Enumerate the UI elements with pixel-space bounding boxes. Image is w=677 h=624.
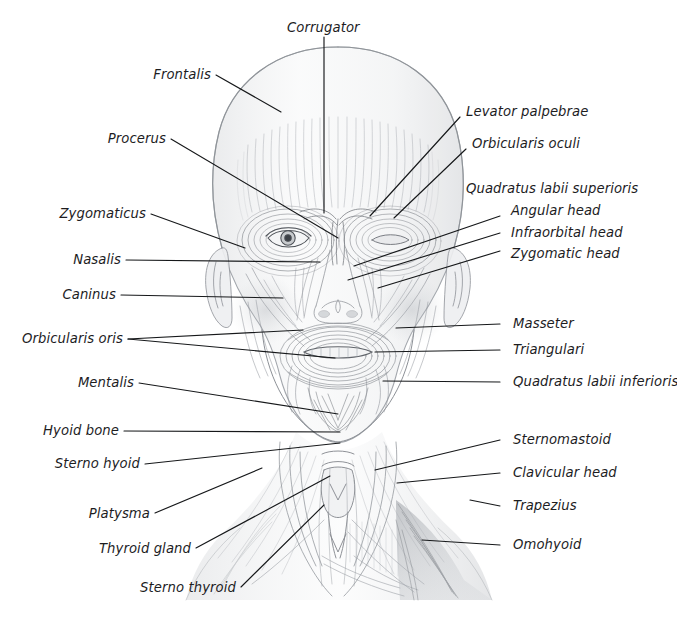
leader-triangulari bbox=[375, 350, 500, 352]
leader-nasalis bbox=[126, 260, 320, 262]
label-sterno-hyoid[interactable]: Sterno hyoid bbox=[55, 456, 140, 471]
anatomy-diagram-canvas: Corrugator Frontalis Procerus Zygomaticu… bbox=[0, 0, 677, 624]
leader-zygomaticus bbox=[151, 214, 245, 248]
label-sterno-thyroid[interactable]: Sterno thyroid bbox=[140, 580, 236, 595]
leader-orbicularis-oculi bbox=[394, 149, 466, 218]
leader-masseter bbox=[396, 324, 500, 328]
label-mentalis[interactable]: Mentalis bbox=[78, 375, 134, 390]
label-zygomaticus[interactable]: Zygomaticus bbox=[59, 206, 146, 221]
leader-hyoid-bone bbox=[124, 431, 340, 432]
label-quadratus-labii-inferioris[interactable]: Quadratus labii inferioris bbox=[513, 374, 677, 389]
leader-quadratus-labii-inferioris bbox=[383, 381, 500, 382]
label-zygomatic-head[interactable]: Zygomatic head bbox=[511, 246, 620, 261]
leader-clavicular-head bbox=[397, 473, 500, 483]
leader-trapezius bbox=[470, 500, 500, 506]
leader-sternomastoid bbox=[375, 440, 500, 470]
label-quadratus-labii-superioris[interactable]: Quadratus labii superioris bbox=[466, 181, 638, 196]
label-triangulari[interactable]: Triangulari bbox=[513, 342, 584, 357]
label-corrugator[interactable]: Corrugator bbox=[287, 20, 360, 35]
leader-levator-palpebrae bbox=[370, 117, 460, 216]
label-levator-palpebrae[interactable]: Levator palpebrae bbox=[466, 104, 589, 119]
label-orbicularis-oris[interactable]: Orbicularis oris bbox=[22, 331, 123, 346]
leader-omohyoid bbox=[422, 540, 500, 545]
leader-mentalis bbox=[139, 383, 338, 414]
label-frontalis[interactable]: Frontalis bbox=[153, 67, 211, 82]
label-infraorbital-head[interactable]: Infraorbital head bbox=[511, 225, 623, 240]
label-hyoid-bone[interactable]: Hyoid bone bbox=[43, 423, 119, 438]
label-masseter[interactable]: Masseter bbox=[513, 316, 574, 331]
leader-orbicularis-oris-lower bbox=[128, 339, 335, 358]
label-thyroid-gland[interactable]: Thyroid gland bbox=[99, 541, 191, 556]
label-platysma[interactable]: Platysma bbox=[89, 506, 150, 521]
leader-zygomatic-head bbox=[378, 251, 500, 288]
leader-procerus bbox=[171, 139, 338, 238]
leader-orbicularis-oris-upper bbox=[128, 330, 303, 339]
label-clavicular-head[interactable]: Clavicular head bbox=[513, 465, 617, 480]
leader-sterno-hyoid bbox=[145, 443, 340, 464]
label-omohyoid[interactable]: Omohyoid bbox=[513, 537, 581, 552]
leader-angular-head bbox=[354, 216, 500, 266]
leader-caninus bbox=[121, 295, 283, 298]
label-caninus[interactable]: Caninus bbox=[62, 287, 116, 302]
label-nasalis[interactable]: Nasalis bbox=[73, 252, 121, 267]
label-angular-head[interactable]: Angular head bbox=[511, 203, 601, 218]
leader-platysma bbox=[155, 468, 262, 513]
label-orbicularis-oculi[interactable]: Orbicularis oculi bbox=[472, 136, 580, 151]
leader-frontalis bbox=[216, 75, 281, 112]
label-procerus[interactable]: Procerus bbox=[108, 131, 166, 146]
label-sternomastoid[interactable]: Sternomastoid bbox=[513, 432, 611, 447]
leader-lines-layer bbox=[0, 0, 677, 624]
label-trapezius[interactable]: Trapezius bbox=[513, 498, 577, 513]
leader-infraorbital-head bbox=[348, 233, 500, 280]
